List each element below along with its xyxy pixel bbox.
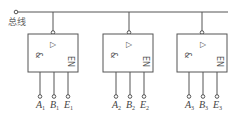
gate-1: ▷ & EN A1 B1 E1 [28,12,78,111]
bus: 总线 [8,10,228,27]
gate-1-and-symbol: & [34,52,43,58]
gate-2-input-b: B2 [126,99,135,111]
gate-3-tristate-icon: ▷ [200,40,207,49]
gate-1-tristate-icon: ▷ [50,40,57,49]
bus-terminal [14,10,18,14]
gate-3-input-a: A3 [184,99,194,111]
gate-2: ▷ & EN A2 B2 E2 [103,12,153,111]
gate-2-tristate-icon: ▷ [126,40,133,49]
gate-2-enable-label: EN [141,56,150,67]
gate-1-input-b: B1 [50,99,59,111]
gate-1-enable-label: EN [66,56,75,67]
gate-3-input-b: B3 [199,99,208,111]
gate-3: ▷ & EN A3 B3 E3 [177,12,227,111]
bus-label: 总线 [8,16,26,27]
gate-1-input-a: A1 [35,99,45,111]
gate-1-input-e: E1 [63,99,73,111]
gate-2-input-e: E2 [139,99,149,111]
gate-3-and-symbol: & [183,52,192,58]
gate-2-and-symbol: & [109,52,118,58]
gate-2-input-a: A2 [111,99,121,111]
gate-3-enable-label: EN [215,56,224,67]
tri-state-bus-diagram: 总线 ▷ & EN A1 B1 E1 ▷ & EN A2 B2 E2 [0,0,240,116]
gate-3-input-e: E3 [212,99,222,111]
